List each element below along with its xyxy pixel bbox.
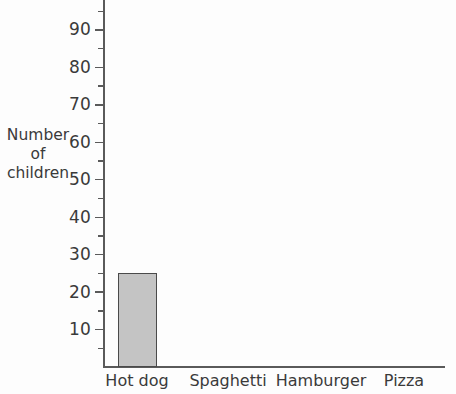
x-axis-label-hot-dog: Hot dog <box>105 371 168 390</box>
y-axis-tick-major <box>95 329 104 330</box>
y-axis-tick-minor <box>98 198 104 199</box>
y-axis-tick-label: 40 <box>54 209 91 226</box>
y-axis-tick-minor <box>98 235 104 236</box>
y-axis-tick-minor <box>98 160 104 161</box>
y-axis-tick-label: 20 <box>54 284 91 301</box>
x-axis-label-spaghetti: Spaghetti <box>189 371 266 390</box>
y-axis-tick-label-text: 40 <box>57 209 91 226</box>
y-axis-tick-label: 10 <box>54 321 91 338</box>
y-axis-tick-label: 50 <box>54 171 91 188</box>
y-axis-tick-major <box>95 29 104 30</box>
y-axis-tick-major <box>95 142 104 143</box>
y-axis-tick-label-text: 50 <box>57 171 91 188</box>
y-axis-tick-minor <box>98 273 104 274</box>
y-axis-tick-minor <box>98 48 104 49</box>
y-axis-tick-label-text: 60 <box>57 134 91 151</box>
y-axis-tick-label-text: 70 <box>57 96 91 113</box>
x-axis-label-pizza: Pizza <box>384 371 424 390</box>
y-axis-tick-major <box>95 254 104 255</box>
bar-hot-dog <box>118 273 157 367</box>
y-axis-tick-major <box>95 104 104 105</box>
y-axis-tick-label-text: 80 <box>57 59 91 76</box>
y-axis-tick-major <box>95 217 104 218</box>
y-axis-tick-minor <box>98 123 104 124</box>
y-axis-tick-label: 60 <box>54 134 91 151</box>
y-axis-tick-minor <box>98 11 104 12</box>
y-axis-line <box>103 0 105 368</box>
x-axis-label-hamburger: Hamburger <box>276 371 367 390</box>
y-axis-tick-label: 70 <box>54 96 91 113</box>
y-axis-tick-label-text: 30 <box>57 246 91 263</box>
y-axis-tick-label: 30 <box>54 246 91 263</box>
y-axis-tick-label-text: 10 <box>57 321 91 338</box>
y-axis-tick-minor <box>98 85 104 86</box>
y-axis-tick-minor <box>98 310 104 311</box>
y-axis-tick-minor <box>98 348 104 349</box>
y-axis-tick-label-text: 20 <box>57 284 91 301</box>
y-axis-tick-major <box>95 291 104 292</box>
y-axis-tick-label: 90 <box>54 21 91 38</box>
bar-chart: Number of children 908070605040302010 Ho… <box>0 0 456 394</box>
y-axis-tick-major <box>95 67 104 68</box>
y-axis-tick-label: 80 <box>54 59 91 76</box>
y-axis-tick-major <box>95 179 104 180</box>
y-axis-tick-label-text: 90 <box>57 21 91 38</box>
